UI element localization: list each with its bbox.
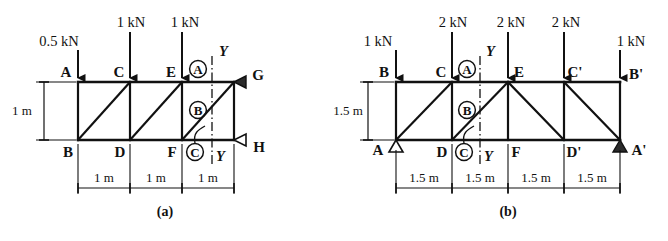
node-label-H: H <box>253 139 265 155</box>
node-label-F-b: F <box>511 144 520 160</box>
node-label-C-b: C <box>436 64 447 80</box>
node-label-A-b: A <box>373 142 384 158</box>
section-label-y-top: Y <box>219 43 229 59</box>
dim-panels-a <box>78 144 234 194</box>
section-label-y-top-b: Y <box>486 43 496 59</box>
member-marker-b3-label: C <box>459 145 468 160</box>
node-label-D-b: D <box>437 144 448 160</box>
member-marker-a2-label: B <box>194 103 203 118</box>
truss-a-diagonals <box>78 82 234 140</box>
member-marker-b1-label: A <box>462 62 472 77</box>
node-label-C-prime-node: C' <box>568 64 583 80</box>
figure-root: 0.5 kN 1 kN 1 kN A C E G B D F H Y Y A <box>0 0 668 241</box>
node-label-D-prime: D' <box>567 144 582 160</box>
node-label-A-prime-node: A' <box>632 142 647 158</box>
member-marker-a3: C <box>187 144 204 161</box>
dim-panel-b-1: 1.5 m <box>409 170 439 185</box>
node-label-A: A <box>61 64 72 80</box>
member-marker-b1: A <box>459 61 476 78</box>
node-label-B: B <box>63 144 73 160</box>
node-label-E-b: E <box>514 64 524 80</box>
dim-panel-b-2: 1.5 m <box>465 170 495 185</box>
caption-b: (b) <box>499 204 516 220</box>
member-marker-a1-label: A <box>193 62 203 77</box>
member-marker-a1: A <box>190 61 207 78</box>
load-label-E: 1 kN <box>171 14 200 30</box>
truss-diagram-a: 0.5 kN 1 kN 1 kN A C E G B D F H Y Y A <box>0 0 334 241</box>
caption-a: (a) <box>157 204 174 220</box>
load-label-E-b: 2 kN <box>497 14 526 30</box>
dim-height-b-label: 1.5 m <box>334 103 363 118</box>
truss-b-verticals <box>396 82 620 140</box>
dim-panel-b-3: 1.5 m <box>521 170 551 185</box>
node-label-C: C <box>114 64 125 80</box>
node-label-F: F <box>167 144 176 160</box>
node-label-D: D <box>115 144 126 160</box>
node-label-B: B <box>379 64 389 80</box>
member-marker-b2: B <box>459 102 476 119</box>
dim-height-a-label: 1 m <box>12 103 32 118</box>
support-G <box>234 76 246 88</box>
section-label-y-bottom: Y <box>216 148 226 164</box>
section-label-y-bottom-b: Y <box>484 148 494 164</box>
member-marker-a2: B <box>190 102 207 119</box>
load-label-C-prime: 2 kN <box>552 14 581 30</box>
node-label-G: G <box>252 67 264 83</box>
load-label-B-prime: 1 kN <box>617 33 646 49</box>
dim-panel-a-2: 1 m <box>146 170 166 185</box>
member-marker-a3-label: C <box>190 145 199 160</box>
node-label-B-prime-node: B' <box>629 66 643 82</box>
dim-height-a <box>36 82 76 140</box>
support-H <box>234 134 246 146</box>
load-label-C-b: 2 kN <box>439 14 468 30</box>
member-marker-b2-label: B <box>463 103 472 118</box>
dim-height-b <box>360 82 394 140</box>
node-label-E: E <box>166 64 176 80</box>
truss-diagram-b: 1 kN 2 kN 2 kN 2 kN 1 kN B C E C' B' A D… <box>334 0 668 241</box>
dim-panel-a-3: 1 m <box>198 170 218 185</box>
member-marker-b3: C <box>456 144 473 161</box>
load-label-C: 1 kN <box>117 14 146 30</box>
load-label-B: 1 kN <box>364 33 393 49</box>
load-label-A: 0.5 kN <box>39 33 79 49</box>
dim-panel-a-1: 1 m <box>94 170 114 185</box>
dim-panel-b-4: 1.5 m <box>577 170 607 185</box>
dim-panels-b <box>396 144 620 194</box>
